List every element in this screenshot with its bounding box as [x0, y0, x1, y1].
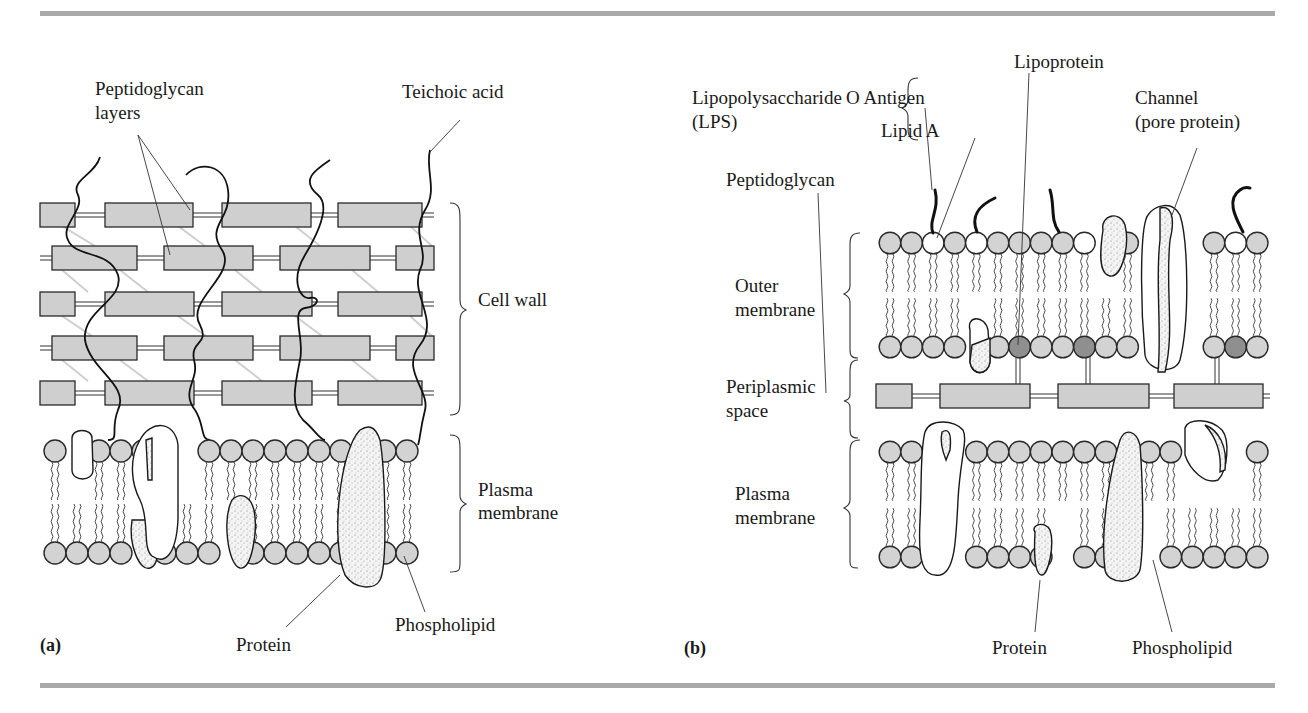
- plasma-membrane-brace-a: [450, 435, 466, 572]
- label-channel-1: Channel: [1135, 87, 1198, 108]
- label-outer-membrane-2: membrane: [735, 299, 815, 320]
- label-phospholipid-a: Phospholipid: [395, 614, 496, 635]
- plasma-membrane-brace-b: [844, 440, 860, 568]
- protein-peripheral-a1: [72, 431, 93, 480]
- outer-membrane: [879, 232, 1268, 358]
- protein-inner-a: [227, 496, 255, 568]
- panel-a: Peptidoglycan layers Teichoic acid Cell …: [40, 78, 558, 656]
- panel-b: Lipopolysaccharide (LPS) O Antigen Lipid…: [684, 51, 1270, 659]
- label-outer-membrane-1: Outer: [735, 275, 779, 296]
- label-teichoic-acid: Teichoic acid: [402, 81, 504, 102]
- label-lps-1: Lipopolysaccharide: [692, 87, 842, 108]
- panel-tag-b: (b): [684, 638, 706, 659]
- protein-inner-b: [1034, 524, 1052, 575]
- panel-tag-a: (a): [40, 635, 61, 656]
- label-plasma-membrane-a-1: Plasma: [478, 479, 533, 500]
- label-lps-2: (LPS): [692, 111, 737, 133]
- periplasm-peptidoglycan: [876, 357, 1270, 408]
- peptidoglycan-layers: [40, 203, 434, 405]
- label-cell-wall: Cell wall: [478, 289, 547, 310]
- label-lipoprotein: Lipoprotein: [1014, 51, 1104, 72]
- label-peptidoglycan-layers-1: Peptidoglycan: [95, 78, 204, 99]
- cell-wall-brace: [450, 203, 466, 415]
- label-o-antigen: O Antigen: [846, 87, 925, 108]
- label-phospholipid-b: Phospholipid: [1132, 637, 1233, 658]
- bottom-rule: [40, 683, 1275, 688]
- o-antigen-chains: [932, 188, 1250, 234]
- protein-outer-peripheral: [1101, 216, 1127, 276]
- label-plasma-membrane-b-2: membrane: [735, 507, 815, 528]
- label-protein-b: Protein: [992, 637, 1047, 658]
- label-peptidoglycan-b: Peptidoglycan: [726, 169, 835, 190]
- label-periplasmic-1: Periplasmic: [726, 376, 816, 397]
- bacterial-envelope-figure: Peptidoglycan layers Teichoic acid Cell …: [0, 0, 1308, 713]
- label-periplasmic-2: space: [726, 400, 768, 421]
- label-peptidoglycan-layers-2: layers: [95, 102, 140, 123]
- label-channel-2: (pore protein): [1135, 111, 1240, 133]
- label-plasma-membrane-b-1: Plasma: [735, 483, 790, 504]
- top-rule: [40, 11, 1275, 16]
- outer-membrane-brace: [844, 233, 860, 358]
- label-protein-a: Protein: [236, 634, 291, 655]
- label-lipid-a: Lipid A: [881, 120, 940, 141]
- label-plasma-membrane-a-2: membrane: [478, 502, 558, 523]
- periplasmic-space-brace: [844, 360, 858, 438]
